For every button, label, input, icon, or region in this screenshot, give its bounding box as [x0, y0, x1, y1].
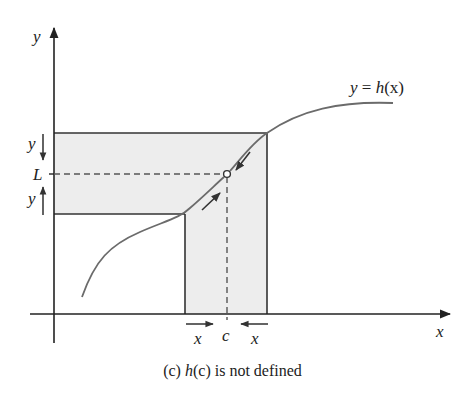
- figure-caption: (c) h(c) is not defined: [0, 362, 465, 380]
- delta-x-left-label: x: [193, 329, 202, 348]
- curve-label: y = h(x): [348, 78, 404, 97]
- point-c-label: c: [222, 326, 230, 345]
- y-axis-label: y: [31, 27, 41, 46]
- delta-y-lower-label: y: [26, 189, 36, 208]
- x-axis-label: x: [435, 322, 444, 341]
- delta-y-upper-label: y: [26, 134, 36, 153]
- limit-diagram: y x L y y x c x y = h(x): [0, 0, 465, 402]
- delta-x-right-label: x: [250, 329, 259, 348]
- limit-label: L: [32, 165, 42, 184]
- hole-point: [224, 171, 231, 178]
- delta-band: [185, 214, 267, 314]
